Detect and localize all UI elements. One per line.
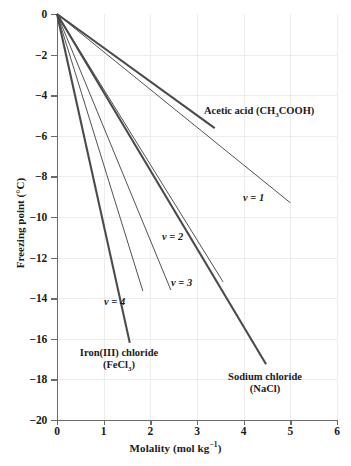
y-tick-label: −16 (30, 333, 47, 345)
annotation-iron-chloride: Iron(III) chloride (FeCl3) (80, 347, 158, 372)
y-tick-label: −12 (30, 252, 47, 264)
y-tick-label: 0 (41, 8, 47, 20)
x-axis-title-main: Molality (mol kg (130, 442, 210, 454)
freezing-point-chart: 0−2−4−6−8−10−12−14−16−18−20 0123456 Acet… (0, 0, 351, 466)
annotation-nu-4: ν = 4 (104, 296, 125, 308)
x-axis-title-tail: ) (218, 442, 222, 454)
series-line (57, 14, 215, 128)
y-tick-label: −4 (35, 89, 47, 101)
acetic-label-post: COOH) (279, 105, 315, 116)
nacl-label-line2: (NaCl) (228, 383, 302, 395)
annotation-nu-3: ν = 3 (171, 277, 192, 289)
y-tick (51, 55, 57, 56)
y-tick-label: −10 (30, 211, 47, 223)
x-tick-label: 0 (54, 425, 60, 437)
y-tick (51, 136, 57, 137)
y-tick-label: −18 (30, 373, 47, 385)
gridline-vertical (244, 14, 245, 420)
y-tick (51, 14, 57, 15)
gridline-vertical (337, 14, 338, 420)
nacl-label-line1: Sodium chloride (228, 371, 302, 383)
x-tick-label: 1 (101, 425, 107, 437)
y-tick-label: −20 (30, 414, 47, 426)
y-axis-title: Freezing point (°C) (14, 108, 26, 338)
annotation-nu-1: ν = 1 (243, 192, 264, 204)
gridline-vertical (290, 14, 291, 420)
y-tick-label: −8 (35, 170, 47, 182)
y-tick-label: −6 (35, 130, 47, 142)
y-tick (51, 339, 57, 340)
annotation-nu-2: ν = 2 (162, 231, 183, 243)
y-axis-line (57, 14, 58, 421)
annotation-sodium-chloride: Sodium chloride (NaCl) (228, 371, 302, 396)
y-tick-label: −2 (35, 49, 47, 61)
x-tick-label: 6 (334, 425, 340, 437)
x-tick-label: 3 (194, 425, 200, 437)
y-tick (51, 95, 57, 96)
acetic-label-pre: Acetic acid (CH (204, 105, 275, 116)
series-line (57, 14, 266, 364)
y-tick-label: −14 (30, 292, 47, 304)
series-line (57, 14, 130, 343)
x-tick-label: 2 (147, 425, 153, 437)
y-tick (51, 217, 57, 218)
iron-label-line1: Iron(III) chloride (80, 347, 158, 359)
x-axis-title-exponent: −1 (209, 440, 217, 449)
y-tick (51, 176, 57, 177)
y-tick (51, 258, 57, 259)
annotation-acetic-acid: Acetic acid (CH3COOH) (204, 105, 314, 117)
x-tick-label: 5 (287, 425, 293, 437)
x-axis-title: Molality (mol kg−1) (0, 442, 351, 454)
iron-label-post: ) (132, 359, 136, 370)
y-tick (51, 298, 57, 299)
gridline-vertical (197, 14, 198, 420)
y-tick (51, 379, 57, 380)
iron-label-line2: (FeCl3) (80, 359, 158, 371)
x-tick-label: 4 (241, 425, 247, 437)
iron-label-pre: (FeCl (103, 359, 128, 370)
